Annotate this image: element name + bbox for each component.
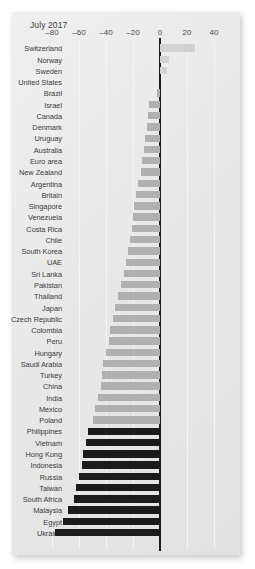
chart-row: South Korea (0, 246, 255, 257)
value-bar (147, 123, 161, 130)
country-label: New Zealand (19, 168, 62, 177)
value-bar (113, 315, 160, 322)
chart-row: India (0, 392, 255, 403)
chart-row: Vietnam (0, 437, 255, 448)
value-bar (79, 473, 160, 480)
chart-row: Japan (0, 302, 255, 313)
chart-row: Philippines (0, 426, 255, 437)
country-label: Colombia (31, 326, 62, 335)
country-label: Thailand (34, 292, 62, 301)
value-bar (121, 281, 160, 288)
country-label: Venezuela (28, 213, 62, 222)
chart-row: Ukraine (0, 528, 255, 539)
value-bar (74, 495, 160, 502)
country-label: Mexico (39, 404, 62, 413)
country-label: Uruguay (34, 134, 62, 143)
value-bar (63, 518, 160, 525)
chart-row: Costa Rica (0, 223, 255, 234)
chart-row: South Africa (0, 494, 255, 505)
chart-row: Switzerland (0, 43, 255, 54)
x-axis-tick-label: 0 (158, 28, 162, 37)
country-label: India (46, 393, 62, 402)
chart-row: New Zealand (0, 167, 255, 178)
value-bar (83, 450, 160, 457)
country-label: Costa Rica (26, 224, 62, 233)
chart-row: UAE (0, 257, 255, 268)
chart-row: Russia (0, 471, 255, 482)
chart-row: Israel (0, 99, 255, 110)
country-label: Indonesia (30, 461, 62, 470)
value-bar (93, 416, 161, 423)
value-bar (141, 168, 160, 175)
value-bar (101, 382, 160, 389)
chart-row: Malaysia (0, 505, 255, 516)
country-label: United States (18, 78, 62, 87)
chart-row: Denmark (0, 122, 255, 133)
chart-row: Indonesia (0, 460, 255, 471)
chart-row: Poland (0, 415, 255, 426)
value-bar (149, 101, 160, 108)
chart-row: Sri Lanka (0, 268, 255, 279)
value-bar (103, 360, 160, 367)
chart-row: United States (0, 77, 255, 88)
chart-row: Hong Kong (0, 449, 255, 460)
chart-row: Venezuela (0, 212, 255, 223)
country-label: Norway (37, 55, 62, 64)
chart-row: Saudi Arabia (0, 359, 255, 370)
chart-row: Turkey (0, 370, 255, 381)
value-bar (157, 89, 160, 96)
country-label: China (43, 382, 62, 391)
chart-row: Norway (0, 54, 255, 65)
chart-row: Australia (0, 144, 255, 155)
country-label: Euro area (30, 156, 62, 165)
value-bar (109, 337, 160, 344)
value-bar (128, 247, 160, 254)
country-label: Hong Kong (25, 450, 62, 459)
value-bar (142, 157, 160, 164)
value-bar (160, 44, 195, 51)
chart-row: Mexico (0, 404, 255, 415)
value-bar (160, 56, 169, 63)
country-label: Brazil (44, 89, 62, 98)
value-bar (102, 371, 160, 378)
value-bar (126, 259, 160, 266)
chart-row: Singapore (0, 201, 255, 212)
chart-row: China (0, 381, 255, 392)
country-label: Israel (44, 100, 62, 109)
country-label: South Africa (23, 495, 62, 504)
chart-row: Pakistan (0, 280, 255, 291)
value-bar (138, 180, 160, 187)
chart-row: Uruguay (0, 133, 255, 144)
chart-row: Thailand (0, 291, 255, 302)
value-bar (86, 439, 160, 446)
value-bar (133, 213, 160, 220)
chart-row: Argentina (0, 178, 255, 189)
value-bar (106, 349, 160, 356)
country-label: Peru (47, 337, 62, 346)
country-label: Australia (34, 145, 62, 154)
chart-row: Brazil (0, 88, 255, 99)
chart-row: Canada (0, 111, 255, 122)
country-label: Poland (39, 416, 62, 425)
country-label: Hungary (34, 348, 62, 357)
value-bar (160, 67, 167, 74)
x-axis-tick-label: 20 (183, 28, 192, 37)
chart-row: Britain (0, 190, 255, 201)
country-label: Czech Republic (11, 314, 62, 323)
country-label: Britain (41, 190, 62, 199)
value-bar (136, 191, 160, 198)
chart-row: Egypt (0, 516, 255, 527)
value-bar (82, 461, 160, 468)
value-bar (55, 529, 160, 536)
chart-row: Sweden (0, 66, 255, 77)
value-bar (144, 146, 160, 153)
chart-row: Colombia (0, 325, 255, 336)
value-bar (118, 292, 160, 299)
country-label: UAE (47, 258, 62, 267)
country-label: Sri Lanka (31, 269, 62, 278)
value-bar (145, 135, 160, 142)
value-bar (110, 326, 160, 333)
value-bar (124, 270, 160, 277)
value-bar (130, 236, 160, 243)
x-axis-tick-label: 40 (210, 28, 219, 37)
